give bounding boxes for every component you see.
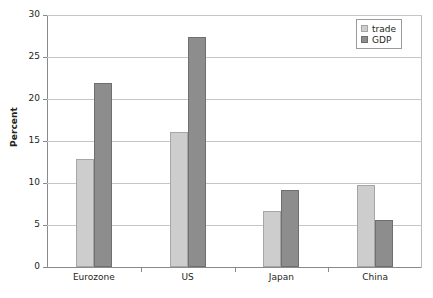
y-tick-mark: [43, 183, 47, 184]
y-tick-label: 5: [10, 220, 40, 229]
bar-chart: Percent 051015202530 EurozoneUSJapanChin…: [0, 0, 433, 298]
bar-china-trade: [357, 185, 375, 267]
gridline: [47, 57, 422, 58]
legend-item-trade: trade: [361, 23, 396, 34]
y-tick-mark: [43, 225, 47, 226]
legend-label-trade: trade: [372, 24, 396, 34]
plot-area: [47, 15, 422, 268]
bar-china-gdp: [375, 220, 393, 267]
y-tick-mark: [43, 267, 47, 268]
y-tick-mark: [43, 99, 47, 100]
y-tick-label: 15: [10, 136, 40, 145]
x-tick-label: US: [138, 272, 238, 282]
x-tick-label: China: [325, 272, 425, 282]
bar-japan-trade: [263, 211, 281, 267]
y-tick-label: 30: [10, 10, 40, 19]
legend-swatch-icon-trade: [361, 25, 368, 32]
bar-eurozone-gdp: [94, 83, 112, 267]
x-tick-label: Eurozone: [44, 272, 144, 282]
bar-eurozone-trade: [76, 159, 94, 267]
bar-us-gdp: [188, 37, 206, 267]
chart-legend: trade GDP: [356, 19, 402, 49]
y-tick-label: 25: [10, 52, 40, 61]
legend-item-gdp: GDP: [361, 34, 396, 45]
y-tick-mark: [43, 141, 47, 142]
y-tick-mark: [43, 15, 47, 16]
y-tick-label: 20: [10, 94, 40, 103]
gridline: [47, 15, 422, 16]
bar-us-trade: [170, 132, 188, 267]
y-tick-mark: [43, 57, 47, 58]
legend-label-gdp: GDP: [372, 35, 391, 45]
y-tick-label: 10: [10, 178, 40, 187]
y-tick-label: 0: [10, 262, 40, 271]
legend-swatch-icon-gdp: [361, 36, 368, 43]
bar-japan-gdp: [281, 190, 299, 267]
y-axis-title: Percent: [9, 97, 19, 157]
x-tick-label: Japan: [231, 272, 331, 282]
